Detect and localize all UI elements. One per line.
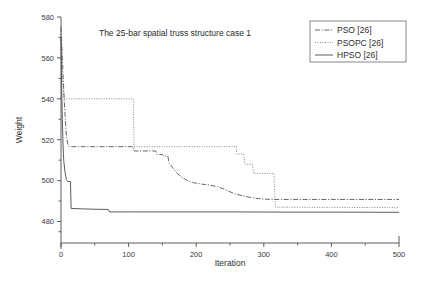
x-tick-label: 400 [325, 250, 338, 259]
x-tick-label: 0 [59, 250, 63, 259]
y-tick-label: 480 [41, 217, 54, 226]
x-axis-title: Iteration [215, 258, 246, 268]
y-tick-label: 500 [41, 176, 54, 185]
x-tick-label: 500 [393, 250, 406, 259]
legend-label-psopc[interactable]: PSOPC [26] [337, 38, 383, 48]
line-chart: 480500520540560580 0100200300400500 The … [0, 0, 422, 284]
chart-title: The 25-bar spatial truss structure case … [99, 28, 251, 38]
y-tick-label: 520 [41, 136, 54, 145]
x-axis: 0100200300400500 [59, 236, 405, 259]
y-axis-title: Weight [14, 116, 24, 143]
y-tick-label: 560 [41, 54, 54, 63]
x-tick-label: 300 [258, 250, 271, 259]
y-tick-label: 580 [41, 13, 54, 22]
legend[interactable]: PSO [26]PSOPC [26]HPSO [26] [310, 21, 406, 62]
y-tick-label: 540 [41, 95, 54, 104]
series-line-hpso [61, 37, 399, 212]
y-axis: 480500520540560580 [41, 13, 61, 249]
x-tick-label: 200 [190, 250, 203, 259]
chart-container: 480500520540560580 0100200300400500 The … [0, 0, 422, 284]
x-tick-label: 100 [122, 250, 135, 259]
legend-label-hpso[interactable]: HPSO [26] [337, 50, 378, 60]
legend-label-pso[interactable]: PSO [26] [337, 25, 372, 35]
